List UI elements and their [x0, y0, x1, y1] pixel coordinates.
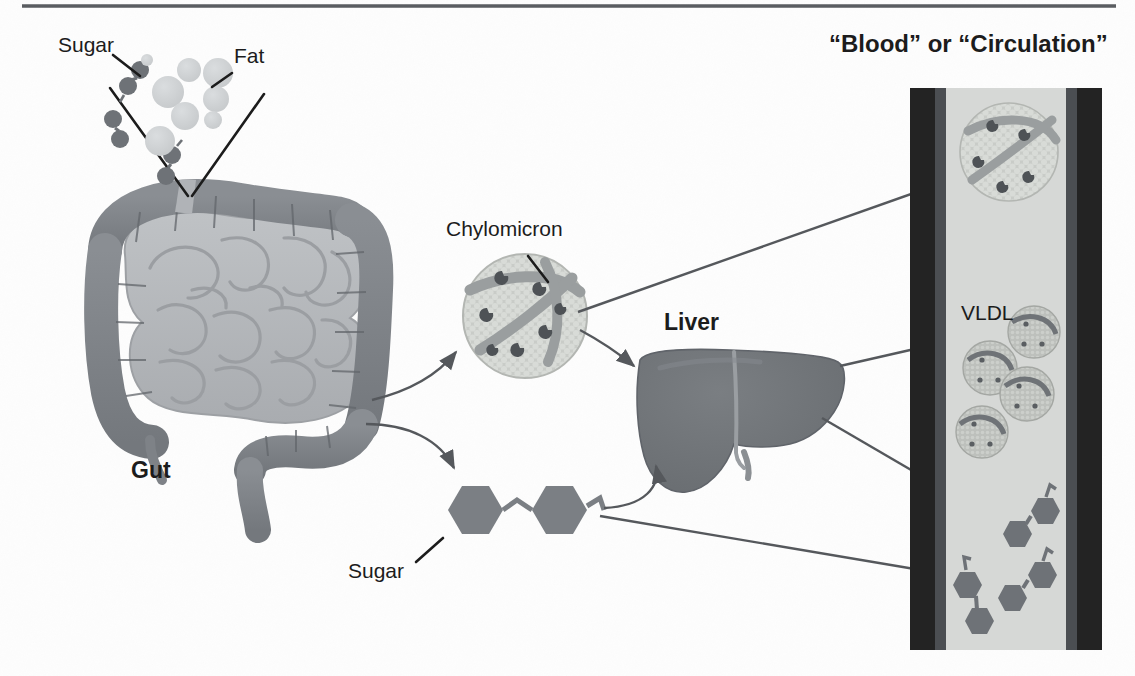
- sugar-top-label: Sugar: [58, 33, 114, 56]
- sugar-bottom-label: Sugar: [348, 559, 404, 582]
- fat-droplet: [204, 111, 222, 129]
- vldl-particle: [956, 406, 1008, 458]
- fat-droplet: [152, 76, 184, 108]
- fat-droplet: [141, 54, 153, 66]
- vldl-particle: [1008, 306, 1060, 358]
- blood-chylomicron-particle: [960, 103, 1058, 201]
- chylomicron-label: Chylomicron: [446, 217, 563, 240]
- chylomicron-particle: [463, 254, 587, 378]
- liver-label: Liver: [664, 309, 719, 335]
- vessel-wall-left-inner: [935, 88, 946, 650]
- fat-top-label: Fat: [234, 44, 265, 67]
- fat-droplet: [171, 102, 199, 130]
- vessel-wall-left: [910, 88, 935, 650]
- vldl-particle: [1000, 367, 1054, 421]
- small-intestine: [125, 211, 372, 423]
- blood-circulation-title: “Blood” or “Circulation”: [829, 30, 1108, 57]
- fat-droplet: [203, 86, 229, 112]
- fat-droplet: [177, 58, 201, 82]
- vldl-label: VLDL: [961, 301, 1014, 324]
- vessel-wall-right-inner: [1066, 88, 1077, 650]
- figure-canvas: Sugar Fat Gut Chylomicron Liver Sugar VL…: [0, 0, 1135, 676]
- fat-droplet: [145, 126, 175, 156]
- gut-label: Gut: [131, 457, 171, 483]
- vessel-wall-right: [1077, 88, 1102, 650]
